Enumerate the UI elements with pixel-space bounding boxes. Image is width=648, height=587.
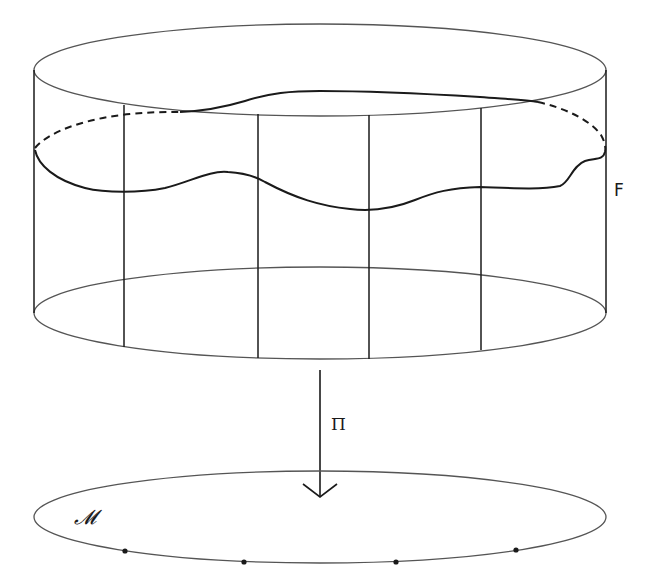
base-point-3 (393, 559, 398, 564)
base-point-1 (122, 548, 127, 553)
section-curve-front (35, 150, 605, 210)
section-curve-hidden-left (35, 112, 180, 148)
base-point-2 (241, 559, 246, 564)
base-manifold-label: 𝓜 (74, 505, 96, 529)
cylinder-top-ellipse (34, 24, 606, 116)
cylinder-bottom-ellipse (34, 267, 606, 359)
projection-label: Π (331, 414, 346, 434)
fiber-bundle-diagram (0, 0, 648, 587)
base-points (122, 547, 518, 564)
base-point-4 (513, 547, 518, 552)
section-curve-back-visible (180, 91, 538, 112)
section-curve-hidden-right (538, 102, 605, 152)
fiber-label: F (614, 180, 624, 200)
fiber-lines (34, 70, 606, 359)
